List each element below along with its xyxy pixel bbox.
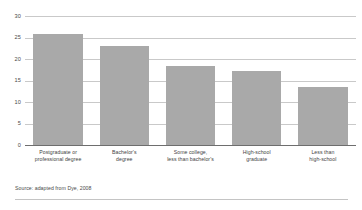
axis-baseline [25, 145, 356, 146]
x-tick-label-line: professional degree [25, 156, 91, 163]
x-axis: Postgraduate orprofessional degreeBachel… [25, 149, 356, 173]
bar [100, 46, 149, 145]
x-tick-label-line: Some college, [157, 149, 223, 156]
x-tick-label-line: degree [91, 156, 157, 163]
bar [298, 87, 347, 145]
chart-figure: 051015202530 Postgraduate orprofessional… [0, 0, 362, 210]
y-tick-label: 0 [18, 142, 21, 148]
y-tick-label: 30 [15, 13, 21, 19]
source-note: Source: adapted from Dye, 2008 [15, 185, 91, 192]
x-tick-label-line: Less than [290, 149, 356, 156]
x-tick-label-line: High-school [224, 149, 290, 156]
x-tick-label-line: less than bachelor's [157, 156, 223, 163]
bar-series [25, 16, 356, 145]
x-tick-label-line: high-school [290, 156, 356, 163]
bottom-divider [15, 199, 348, 200]
bar [166, 66, 215, 145]
y-tick-label: 5 [18, 120, 21, 126]
bar [232, 71, 281, 145]
bar [33, 34, 82, 145]
plot-area [25, 16, 356, 145]
x-tick-label: Less thanhigh-school [290, 149, 356, 163]
y-tick-label: 10 [15, 99, 21, 105]
y-axis: 051015202530 [0, 16, 21, 145]
x-tick-label: Postgraduate orprofessional degree [25, 149, 91, 163]
y-tick-label: 25 [15, 34, 21, 40]
x-tick-label-line: Postgraduate or [25, 149, 91, 156]
x-tick-label: Some college,less than bachelor's [157, 149, 223, 163]
x-tick-label: Bachelor'sdegree [91, 149, 157, 163]
y-tick-label: 20 [15, 56, 21, 62]
x-tick-label-line: Bachelor's [91, 149, 157, 156]
y-tick-label: 15 [15, 77, 21, 83]
x-tick-label-line: graduate [224, 156, 290, 163]
x-tick-label: High-schoolgraduate [224, 149, 290, 163]
